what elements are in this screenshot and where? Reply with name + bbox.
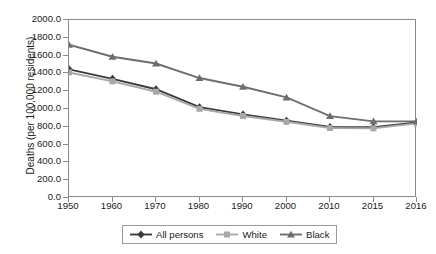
legend-label: White [242, 229, 267, 240]
chart-figure: Deaths (per 100,000 residents) 2000.0180… [0, 0, 436, 254]
chart-legend: All personsWhiteBlack [122, 225, 337, 244]
data-point-marker [327, 125, 333, 131]
legend-item: Black [280, 229, 329, 240]
data-point-marker [240, 113, 246, 119]
legend-label: All persons [156, 229, 203, 240]
data-point-marker [137, 231, 144, 239]
legend-symbol-triangle-icon [280, 230, 302, 239]
data-point-marker [371, 125, 377, 131]
y-tick-label: 400.0 [7, 156, 61, 166]
legend-item: White [216, 229, 267, 240]
legend-symbol-square-icon [216, 230, 238, 239]
legend-item: All persons [130, 229, 203, 240]
y-tick-label: 1800.0 [7, 32, 61, 42]
y-tick-label: 1000.0 [7, 103, 61, 113]
series-layer [69, 20, 417, 198]
x-tick-label: 2016 [393, 200, 436, 211]
y-tick-label: 1400.0 [7, 67, 61, 77]
y-tick-label: 1200.0 [7, 85, 61, 95]
data-point-marker [110, 78, 116, 84]
data-point-marker [69, 69, 72, 75]
data-point-marker [153, 89, 159, 95]
data-point-marker [284, 119, 290, 125]
legend-symbol-diamond-icon [130, 230, 152, 239]
y-tick-label: 800.0 [7, 121, 61, 131]
legend-label: Black [306, 229, 329, 240]
data-point-marker [69, 41, 73, 48]
y-tick-label: 2000.0 [7, 14, 61, 24]
data-point-marker [197, 106, 203, 112]
data-point-marker [224, 232, 230, 238]
y-tick-label: 200.0 [7, 174, 61, 184]
y-tick-label: 1600.0 [7, 50, 61, 60]
plot-area [68, 19, 416, 197]
y-tick-label: 600.0 [7, 139, 61, 149]
